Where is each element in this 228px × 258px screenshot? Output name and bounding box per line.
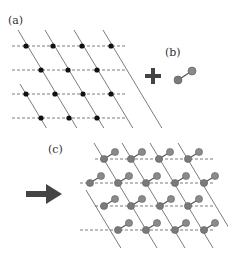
adsorbed-atom-lower [100, 202, 107, 209]
panel-a-lattice [12, 30, 162, 128]
panel-label-b: (b) [165, 46, 181, 59]
adsorbed-atom-upper [97, 172, 104, 179]
adsorbed-atom-upper [211, 172, 218, 179]
adsorbed-atom-upper [195, 148, 202, 155]
lattice-site [94, 115, 99, 120]
lattice-site [79, 43, 84, 48]
adsorbed-atom-lower [86, 179, 93, 186]
lattice-site [50, 43, 55, 48]
adsorbed-atom-lower [127, 202, 134, 209]
adsorbed-atom-lower [155, 155, 162, 162]
plus-icon [145, 68, 161, 84]
adsorbed-atom-upper [182, 172, 189, 179]
lattice-site [52, 91, 57, 96]
adsorbed-atom-lower [127, 155, 134, 162]
adsorbed-atom-upper [153, 172, 160, 179]
adsorbed-atom-upper [211, 219, 218, 226]
adsorbed-atom-upper [111, 148, 118, 155]
panel-label-a: (a) [8, 14, 23, 27]
right-arrow-icon [26, 184, 62, 204]
panel-b-molecule [174, 67, 196, 84]
adsorbed-atom-lower [142, 179, 149, 186]
adsorbed-atom-lower [200, 226, 207, 233]
lattice-site [38, 115, 43, 120]
adsorbed-atom-lower [171, 179, 178, 186]
adsorbed-atom-upper [138, 195, 145, 202]
adsorbed-atom-lower [100, 155, 107, 162]
adsorbed-atom-lower [114, 226, 121, 233]
adsorbed-atom-lower [114, 179, 121, 186]
lattice-site [94, 67, 99, 72]
adsorbed-atom-upper [125, 172, 132, 179]
adsorbed-atom-upper [125, 219, 132, 226]
lattice-site [23, 91, 28, 96]
adsorbed-atom-lower [156, 202, 163, 209]
panel-c-adsorbed-lattice [80, 143, 228, 248]
adsorbed-atom-upper [111, 195, 118, 202]
lattice-site [23, 43, 28, 48]
adsorbed-atom-lower [184, 202, 191, 209]
adsorbed-atom-lower [184, 155, 191, 162]
panel-label-c: (c) [48, 143, 63, 156]
lattice-site [65, 67, 70, 72]
lattice-site [80, 91, 85, 96]
lattice-site [108, 43, 113, 48]
molecule-atom-upper [188, 67, 196, 75]
adsorbed-atom-upper [182, 219, 189, 226]
adsorbed-atom-lower [142, 226, 149, 233]
adsorbed-atom-upper [166, 148, 173, 155]
adsorbed-atom-lower [171, 226, 178, 233]
lattice-site [38, 67, 43, 72]
adsorbed-atom-lower [200, 179, 207, 186]
diagonal-line [20, 84, 46, 128]
adsorbed-atom-upper [195, 195, 202, 202]
lattice-site [66, 115, 71, 120]
adsorbed-atom-upper [167, 195, 174, 202]
adsorbed-atom-upper [153, 219, 160, 226]
adsorbed-atom-upper [138, 148, 145, 155]
lattice-adsorption-diagram: (a) (b) (c) [0, 0, 228, 258]
molecule-atom-lower [174, 76, 182, 84]
lattice-site [108, 91, 113, 96]
